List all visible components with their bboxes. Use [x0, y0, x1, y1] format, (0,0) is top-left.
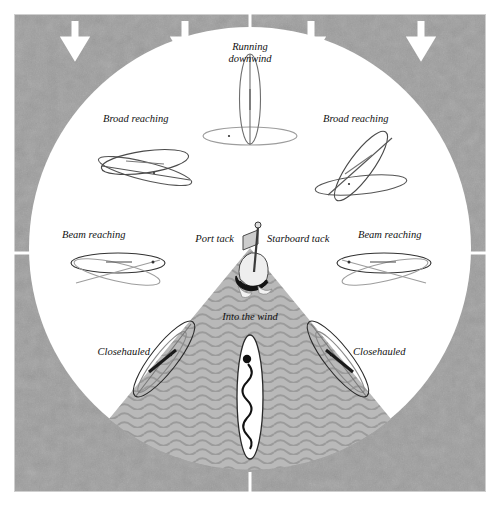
label-broad-reaching-left: Broad reaching: [103, 113, 168, 124]
label-closehauled-right: Closehauled: [353, 346, 406, 357]
label-closehauled-left: Closehauled: [98, 346, 151, 357]
label-running-downwind-line2: downwind: [228, 53, 272, 64]
label-beam-reaching-left: Beam reaching: [62, 229, 125, 240]
figure-canvas: Running downwind Broad reaching Broad re…: [0, 0, 500, 506]
points-of-sail-figure: Running downwind Broad reaching Broad re…: [14, 14, 486, 492]
boat-into-the-wind: [237, 335, 263, 459]
points-of-sail-svg: Running downwind Broad reaching Broad re…: [14, 14, 486, 492]
label-into-the-wind: Into the wind: [221, 311, 278, 322]
label-port-tack: Port tack: [194, 233, 234, 244]
label-running-downwind-line1: Running: [231, 41, 268, 52]
label-starboard-tack: Starboard tack: [267, 233, 330, 244]
label-beam-reaching-right: Beam reaching: [358, 229, 421, 240]
label-broad-reaching-right: Broad reaching: [323, 113, 388, 124]
